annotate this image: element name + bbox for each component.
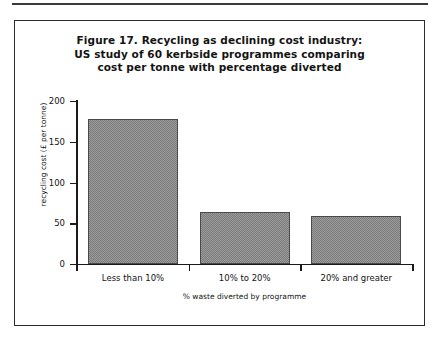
x-tick-0 xyxy=(76,264,78,271)
y-tick-50 xyxy=(70,223,77,225)
chart-title-line-1: Figure 17. Recycling as declining cost i… xyxy=(15,34,424,48)
x-axis-title: % waste diverted by programme xyxy=(77,292,412,301)
x-tick-2 xyxy=(300,264,302,271)
x-category-label-1: 10% to 20% xyxy=(189,273,301,283)
y-tick-200 xyxy=(70,101,77,103)
chart-title-line-3: cost per tonne with percentage diverted xyxy=(15,61,424,75)
bar-10-to-20 xyxy=(200,212,290,264)
y-axis-title: recycling cost (£ per tonne) xyxy=(39,80,48,230)
bar-20-and-greater xyxy=(311,216,401,264)
top-divider-rule xyxy=(12,3,428,5)
figure-frame: Figure 17. Recycling as declining cost i… xyxy=(14,20,425,326)
x-category-label-2: 20% and greater xyxy=(300,273,412,283)
x-tick-1 xyxy=(189,264,191,271)
x-category-label-0: Less than 10% xyxy=(77,273,189,283)
y-tick-100 xyxy=(70,183,77,185)
y-tick-150 xyxy=(70,142,77,144)
y-tick-label-0: 0 xyxy=(19,260,65,269)
x-tick-3 xyxy=(412,264,414,271)
bar-less-than-10 xyxy=(88,119,178,264)
plot-area xyxy=(77,101,412,264)
chart-title: Figure 17. Recycling as declining cost i… xyxy=(15,34,424,75)
chart-title-line-2: US study of 60 kerbside programmes compa… xyxy=(15,48,424,62)
